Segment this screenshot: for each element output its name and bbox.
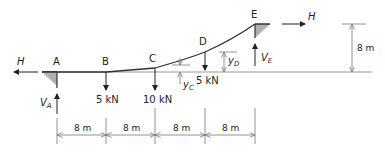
point-a-label: A <box>53 56 60 67</box>
load-d-label: 5 kN <box>196 75 219 86</box>
load-b-label: 5 kN <box>96 94 119 105</box>
cable <box>42 68 155 72</box>
support-e <box>255 24 270 38</box>
yd-label: yD <box>227 55 240 68</box>
h-left-label: H <box>17 56 25 67</box>
span-cd-label: 8 m <box>173 123 190 133</box>
span-ab-label: 8 m <box>74 123 91 133</box>
point-e-label: E <box>251 9 257 20</box>
h-right-label: H <box>308 11 316 22</box>
support-a <box>42 72 57 88</box>
va-label: VA <box>40 97 52 110</box>
yc-label: yC <box>182 79 194 92</box>
span-bc-label: 8 m <box>123 123 140 133</box>
point-c-label: C <box>149 53 156 64</box>
point-d-label: D <box>199 36 207 47</box>
ve-label: VE <box>261 52 273 65</box>
cable-diagram: H H A B C D E VA VE 5 kN 10 kN 5 kN yC y… <box>0 0 385 156</box>
load-c-label: 10 kN <box>143 94 172 105</box>
height-dimension-label: 8 m <box>357 43 374 53</box>
point-b-label: B <box>102 56 109 67</box>
span-de-label: 8 m <box>222 123 239 133</box>
